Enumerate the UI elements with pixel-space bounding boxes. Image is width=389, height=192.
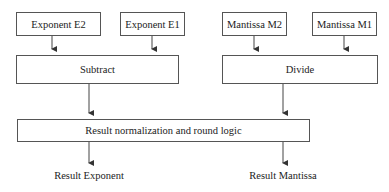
normalization-box: Result normalization and round logic <box>17 119 310 142</box>
input-box-exponent-e2: Exponent E2 <box>16 12 101 36</box>
input-label: Exponent E2 <box>31 19 86 30</box>
input-box-exponent-e1: Exponent E1 <box>120 12 185 36</box>
input-box-mantissa-m2: Mantissa M2 <box>222 12 287 36</box>
input-box-mantissa-m1: Mantissa M1 <box>312 12 377 36</box>
output-label-result-exponent: Result Exponent <box>54 170 124 181</box>
normalization-label: Result normalization and round logic <box>85 125 241 136</box>
operation-label: Subtract <box>80 64 115 75</box>
input-label: Mantissa M1 <box>317 19 372 30</box>
output-label-result-mantissa: Result Mantissa <box>249 170 316 181</box>
input-label: Exponent E1 <box>125 19 180 30</box>
input-label: Mantissa M2 <box>227 19 282 30</box>
operation-label: Divide <box>286 64 315 75</box>
operation-box-divide: Divide <box>222 55 378 84</box>
operation-box-subtract: Subtract <box>16 55 179 84</box>
